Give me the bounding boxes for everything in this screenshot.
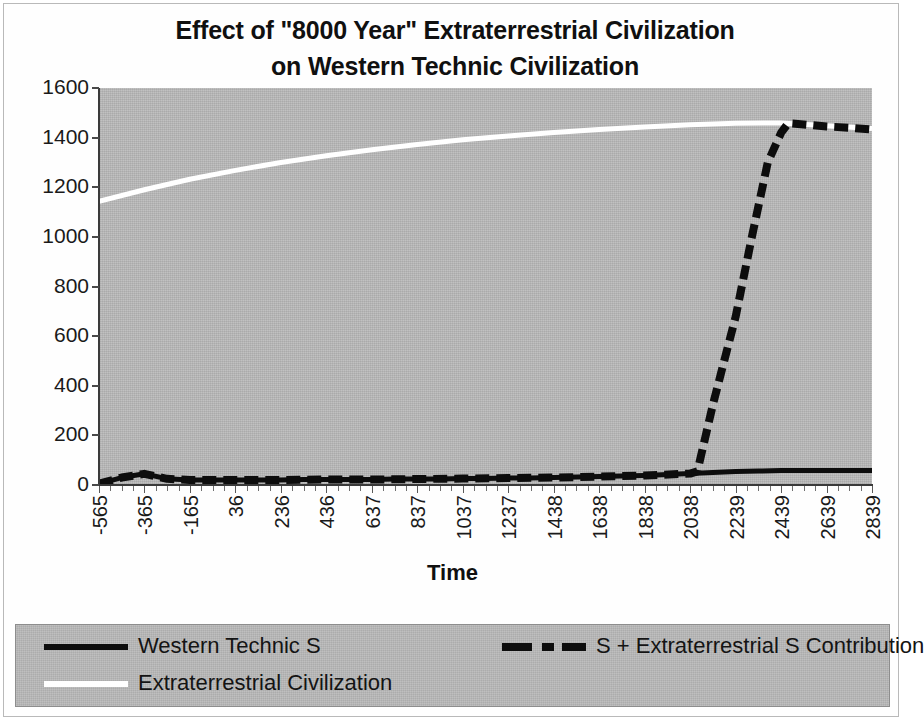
x-tick-mark-minor xyxy=(576,486,577,491)
legend-label-extraterrestrial-civilization: Extraterrestrial Civilization xyxy=(138,670,392,696)
legend-item-western-technic-s: Western Technic S xyxy=(38,633,321,659)
x-tick-mark xyxy=(736,486,737,493)
x-tick-mark-minor xyxy=(360,486,361,491)
x-tick-label: 637 xyxy=(362,495,385,528)
x-tick-mark-minor xyxy=(451,486,452,491)
x-tick-mark-minor xyxy=(633,486,634,491)
y-tick-mark xyxy=(92,236,99,238)
x-tick-mark-minor xyxy=(565,486,566,491)
x-tick-mark-minor xyxy=(270,486,271,491)
x-tick-label: -365 xyxy=(134,495,157,535)
x-tick-mark-minor xyxy=(179,486,180,491)
x-tick-mark xyxy=(417,486,418,493)
x-tick-mark-minor xyxy=(315,486,316,491)
x-tick-mark xyxy=(599,486,600,493)
x-tick-mark-minor xyxy=(122,486,123,491)
x-tick-mark xyxy=(326,486,327,493)
x-tick-mark-minor xyxy=(520,486,521,491)
x-tick-mark-minor xyxy=(224,486,225,491)
x-tick-label: 2839 xyxy=(862,495,885,540)
y-tick-mark xyxy=(92,137,99,139)
plot-area xyxy=(99,88,872,485)
x-tick-label: 837 xyxy=(407,495,430,528)
y-tick-mark xyxy=(92,434,99,436)
x-tick-mark xyxy=(872,486,873,493)
series-line-s-extraterrestrial-s-contribution xyxy=(99,123,872,484)
x-tick-mark-minor xyxy=(304,486,305,491)
x-tick-mark xyxy=(554,486,555,493)
x-tick-mark xyxy=(235,486,236,493)
x-tick-label: -165 xyxy=(180,495,203,535)
x-tick-label: 36 xyxy=(225,495,248,517)
x-tick-mark-minor xyxy=(474,486,475,491)
legend-label-western-technic-s: Western Technic S xyxy=(138,633,321,659)
x-tick-mark-minor xyxy=(133,486,134,491)
y-tick-mark xyxy=(92,335,99,337)
x-tick-mark xyxy=(508,486,509,493)
x-tick-mark-minor xyxy=(497,486,498,491)
legend-item-s-plus-extraterrestrial-contribution: S + Extraterrestrial S Contribution xyxy=(496,633,924,659)
x-tick-label: 2639 xyxy=(817,495,840,540)
x-tick-label: 2239 xyxy=(726,495,749,540)
x-tick-mark-minor xyxy=(349,486,350,491)
x-tick-mark-minor xyxy=(110,486,111,491)
x-axis-title: Time xyxy=(0,560,905,586)
series-line-extraterrestrial-civilization xyxy=(99,123,872,201)
x-tick-mark-minor xyxy=(804,486,805,491)
x-tick-mark xyxy=(827,486,828,493)
x-tick-mark xyxy=(690,486,691,493)
x-tick-mark xyxy=(781,486,782,493)
x-tick-label: 1037 xyxy=(453,495,476,540)
x-tick-mark-minor xyxy=(701,486,702,491)
x-tick-mark-minor xyxy=(406,486,407,491)
x-tick-label: 2038 xyxy=(680,495,703,540)
x-tick-mark xyxy=(372,486,373,493)
plot-region: 02004006008001000120014001600 -565-365-1… xyxy=(0,0,905,600)
legend-swatch-solid-white-icon xyxy=(38,672,134,694)
legend-swatch-solid-black-icon xyxy=(38,635,134,657)
x-tick-mark-minor xyxy=(679,486,680,491)
series-layer xyxy=(99,88,872,485)
x-tick-mark-minor xyxy=(611,486,612,491)
x-tick-mark-minor xyxy=(531,486,532,491)
x-tick-mark-minor xyxy=(667,486,668,491)
x-tick-mark-minor xyxy=(815,486,816,491)
chart-legend: Western Technic S Extraterrestrial Civil… xyxy=(15,624,890,707)
x-tick-mark-minor xyxy=(770,486,771,491)
x-tick-label: 236 xyxy=(271,495,294,528)
x-tick-mark-minor xyxy=(247,486,248,491)
x-tick-mark xyxy=(281,486,282,493)
x-tick-mark xyxy=(99,486,100,493)
x-tick-mark-minor xyxy=(292,486,293,491)
legend-item-extraterrestrial-civilization: Extraterrestrial Civilization xyxy=(38,670,392,696)
x-tick-label: 1638 xyxy=(589,495,612,540)
x-tick-mark-minor xyxy=(758,486,759,491)
x-tick-mark-minor xyxy=(724,486,725,491)
x-tick-mark xyxy=(144,486,145,493)
y-tick-mark xyxy=(92,87,99,89)
x-tick-label: 1438 xyxy=(544,495,567,540)
x-tick-mark xyxy=(645,486,646,493)
x-tick-label: -565 xyxy=(89,495,112,535)
legend-swatch-dashed-black-icon xyxy=(496,635,592,657)
x-tick-mark-minor xyxy=(861,486,862,491)
x-tick-mark-minor xyxy=(588,486,589,491)
x-tick-mark-minor xyxy=(213,486,214,491)
legend-label-s-plus-extraterrestrial-contribution: S + Extraterrestrial S Contribution xyxy=(596,633,924,659)
y-tick-mark xyxy=(92,186,99,188)
x-tick-mark-minor xyxy=(713,486,714,491)
x-tick-mark xyxy=(190,486,191,493)
x-tick-mark-minor xyxy=(747,486,748,491)
x-tick-label: 1237 xyxy=(498,495,521,540)
x-tick-mark xyxy=(463,486,464,493)
x-tick-mark-minor xyxy=(201,486,202,491)
x-tick-mark-minor xyxy=(258,486,259,491)
x-tick-mark-minor xyxy=(395,486,396,491)
x-tick-mark-minor xyxy=(429,486,430,491)
y-tick-mark xyxy=(92,385,99,387)
x-tick-label: 436 xyxy=(316,495,339,528)
x-tick-mark-minor xyxy=(383,486,384,491)
x-tick-label: 2439 xyxy=(771,495,794,540)
x-tick-label: 1838 xyxy=(635,495,658,540)
